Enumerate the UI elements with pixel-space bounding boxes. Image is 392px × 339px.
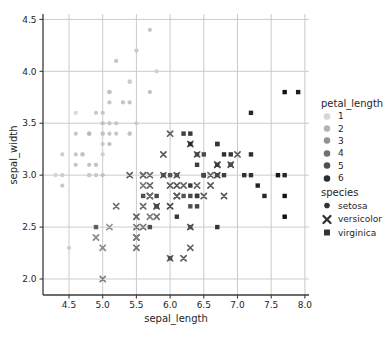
data-point <box>148 28 152 32</box>
data-point <box>107 132 111 136</box>
data-point <box>215 173 219 177</box>
style-legend-items: setosaversicolorvirginica <box>319 199 392 239</box>
data-point <box>101 111 105 115</box>
data-point <box>128 80 132 84</box>
hue-legend-items: 123456 <box>319 110 392 184</box>
data-point <box>181 131 185 135</box>
x-axis-title: sepal_length <box>144 313 208 325</box>
data-point <box>249 173 253 177</box>
data-point <box>276 173 280 177</box>
data-point <box>148 90 152 94</box>
x-tick-label: 7.0 <box>230 300 245 310</box>
petal-length-swatch-icon <box>319 172 335 185</box>
x-tick-label: 7.5 <box>264 300 278 310</box>
data-point <box>282 194 286 198</box>
data-point <box>94 173 98 177</box>
data-point <box>107 100 111 104</box>
legend-swatch-circle <box>324 113 331 120</box>
data-point <box>215 225 219 229</box>
legend-item-label: 3 <box>338 136 344 146</box>
data-point <box>94 163 98 167</box>
legend-item-petal-length-4: 4 <box>319 147 392 159</box>
data-point <box>195 204 199 208</box>
legend-swatch-square <box>324 230 330 236</box>
data-point <box>296 90 300 94</box>
y-tick-label: 3.0 <box>22 170 37 180</box>
data-point <box>161 173 165 177</box>
legend-item-species-versicolor: versicolor <box>319 213 392 226</box>
data-point <box>168 173 172 177</box>
legend-item-label: setosa <box>338 201 367 211</box>
y-axis-title: sepal_width <box>8 125 20 184</box>
data-point <box>134 121 138 125</box>
legend: petal_length 123456 species setosaversic… <box>319 97 392 239</box>
data-point <box>154 194 158 198</box>
data-point <box>114 204 119 209</box>
data-point <box>74 152 78 156</box>
data-point <box>222 152 226 156</box>
y-tick-label: 4.5 <box>22 15 36 25</box>
data-point <box>282 90 286 94</box>
data-point <box>101 132 105 136</box>
data-point <box>195 194 199 198</box>
data-point <box>282 215 286 219</box>
data-point <box>148 225 152 229</box>
data-point <box>194 183 199 188</box>
petal-length-swatch-icon <box>319 122 335 135</box>
data-point <box>154 214 159 219</box>
data-point <box>101 152 105 156</box>
data-point <box>107 121 111 125</box>
legend-item-label: 6 <box>338 173 344 183</box>
data-point <box>188 194 192 198</box>
data-point <box>188 131 192 135</box>
data-point <box>128 132 132 136</box>
data-point <box>80 152 84 156</box>
data-point <box>147 183 152 188</box>
legend-item-petal-length-2: 2 <box>319 122 392 134</box>
data-point <box>208 183 213 188</box>
legend-swatch-circle <box>324 150 331 157</box>
data-point <box>60 152 64 156</box>
legend-item-petal-length-6: 6 <box>319 172 392 184</box>
data-point <box>141 194 145 198</box>
data-point <box>161 152 166 157</box>
data-point <box>229 152 233 156</box>
data-point <box>107 142 111 146</box>
y-tick-label: 4.0 <box>22 67 37 77</box>
data-point <box>60 183 64 187</box>
data-point <box>147 193 152 198</box>
legend-item-petal-length-5: 5 <box>319 160 392 172</box>
x-tick-label: 5.5 <box>129 300 143 310</box>
legend-item-label: 4 <box>338 148 344 158</box>
x-tick-label: 6.0 <box>163 300 178 310</box>
x-marker-icon <box>319 213 335 226</box>
data-point <box>188 245 193 250</box>
data-point <box>107 90 111 94</box>
legend-item-label: versicolor <box>338 214 382 224</box>
x-tick-label: 5.0 <box>96 300 111 310</box>
y-tick-label: 2.5 <box>22 222 36 232</box>
data-point <box>93 235 98 240</box>
data-point <box>53 173 57 177</box>
data-point <box>87 173 91 177</box>
x-tick-label: 6.5 <box>197 300 211 310</box>
legend-swatch-circle <box>324 125 331 132</box>
data-point <box>141 204 146 209</box>
data-point <box>60 173 64 177</box>
legend-item-petal-length-1: 1 <box>319 110 392 122</box>
data-point <box>181 183 186 188</box>
legend-item-label: 2 <box>338 124 344 134</box>
legend-item-species-setosa: setosa <box>319 199 392 212</box>
axis-layer: 4.55.05.56.06.57.07.58.02.02.53.03.54.04… <box>22 14 312 310</box>
data-point <box>121 100 125 104</box>
data-point <box>188 142 192 146</box>
x-tick-label: 4.5 <box>62 300 76 310</box>
data-point <box>242 173 246 177</box>
data-point <box>168 256 172 260</box>
data-point <box>181 256 186 261</box>
data-point <box>74 163 78 167</box>
style-legend-title: species <box>321 186 392 199</box>
data-point <box>188 183 192 187</box>
y-tick-label: 3.5 <box>22 118 36 128</box>
data-point <box>175 215 179 219</box>
